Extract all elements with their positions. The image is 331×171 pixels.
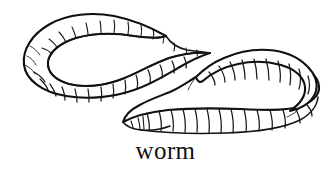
figure-caption: worm	[0, 136, 331, 166]
worm-figure: worm	[0, 0, 331, 171]
